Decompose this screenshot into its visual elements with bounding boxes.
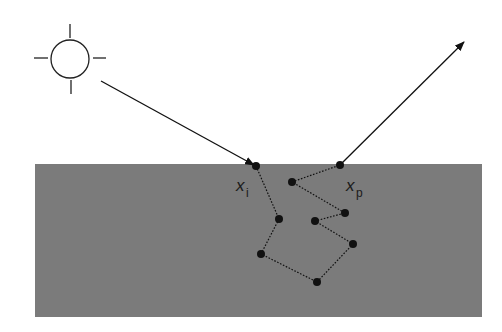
- entry-point: [252, 162, 260, 170]
- scatter-point: [275, 215, 283, 223]
- scatter-point: [341, 209, 349, 217]
- subsurface-scattering-diagram: x i x p: [0, 0, 502, 332]
- scatter-point: [313, 278, 321, 286]
- scatter-point: [257, 250, 265, 258]
- scatter-point: [311, 217, 319, 225]
- medium-slab: [35, 164, 482, 317]
- sun-icon: [34, 24, 106, 94]
- scatter-point: [349, 240, 357, 248]
- incident-ray-arrow: [101, 81, 254, 165]
- scatter-point: [288, 178, 296, 186]
- exit-label-sub: p: [356, 186, 363, 200]
- exit-point: [336, 161, 344, 169]
- entry-label-sub: i: [246, 186, 249, 200]
- exit-label-main: x: [345, 176, 355, 195]
- entry-label-main: x: [235, 176, 245, 195]
- exit-ray-arrow: [340, 42, 464, 165]
